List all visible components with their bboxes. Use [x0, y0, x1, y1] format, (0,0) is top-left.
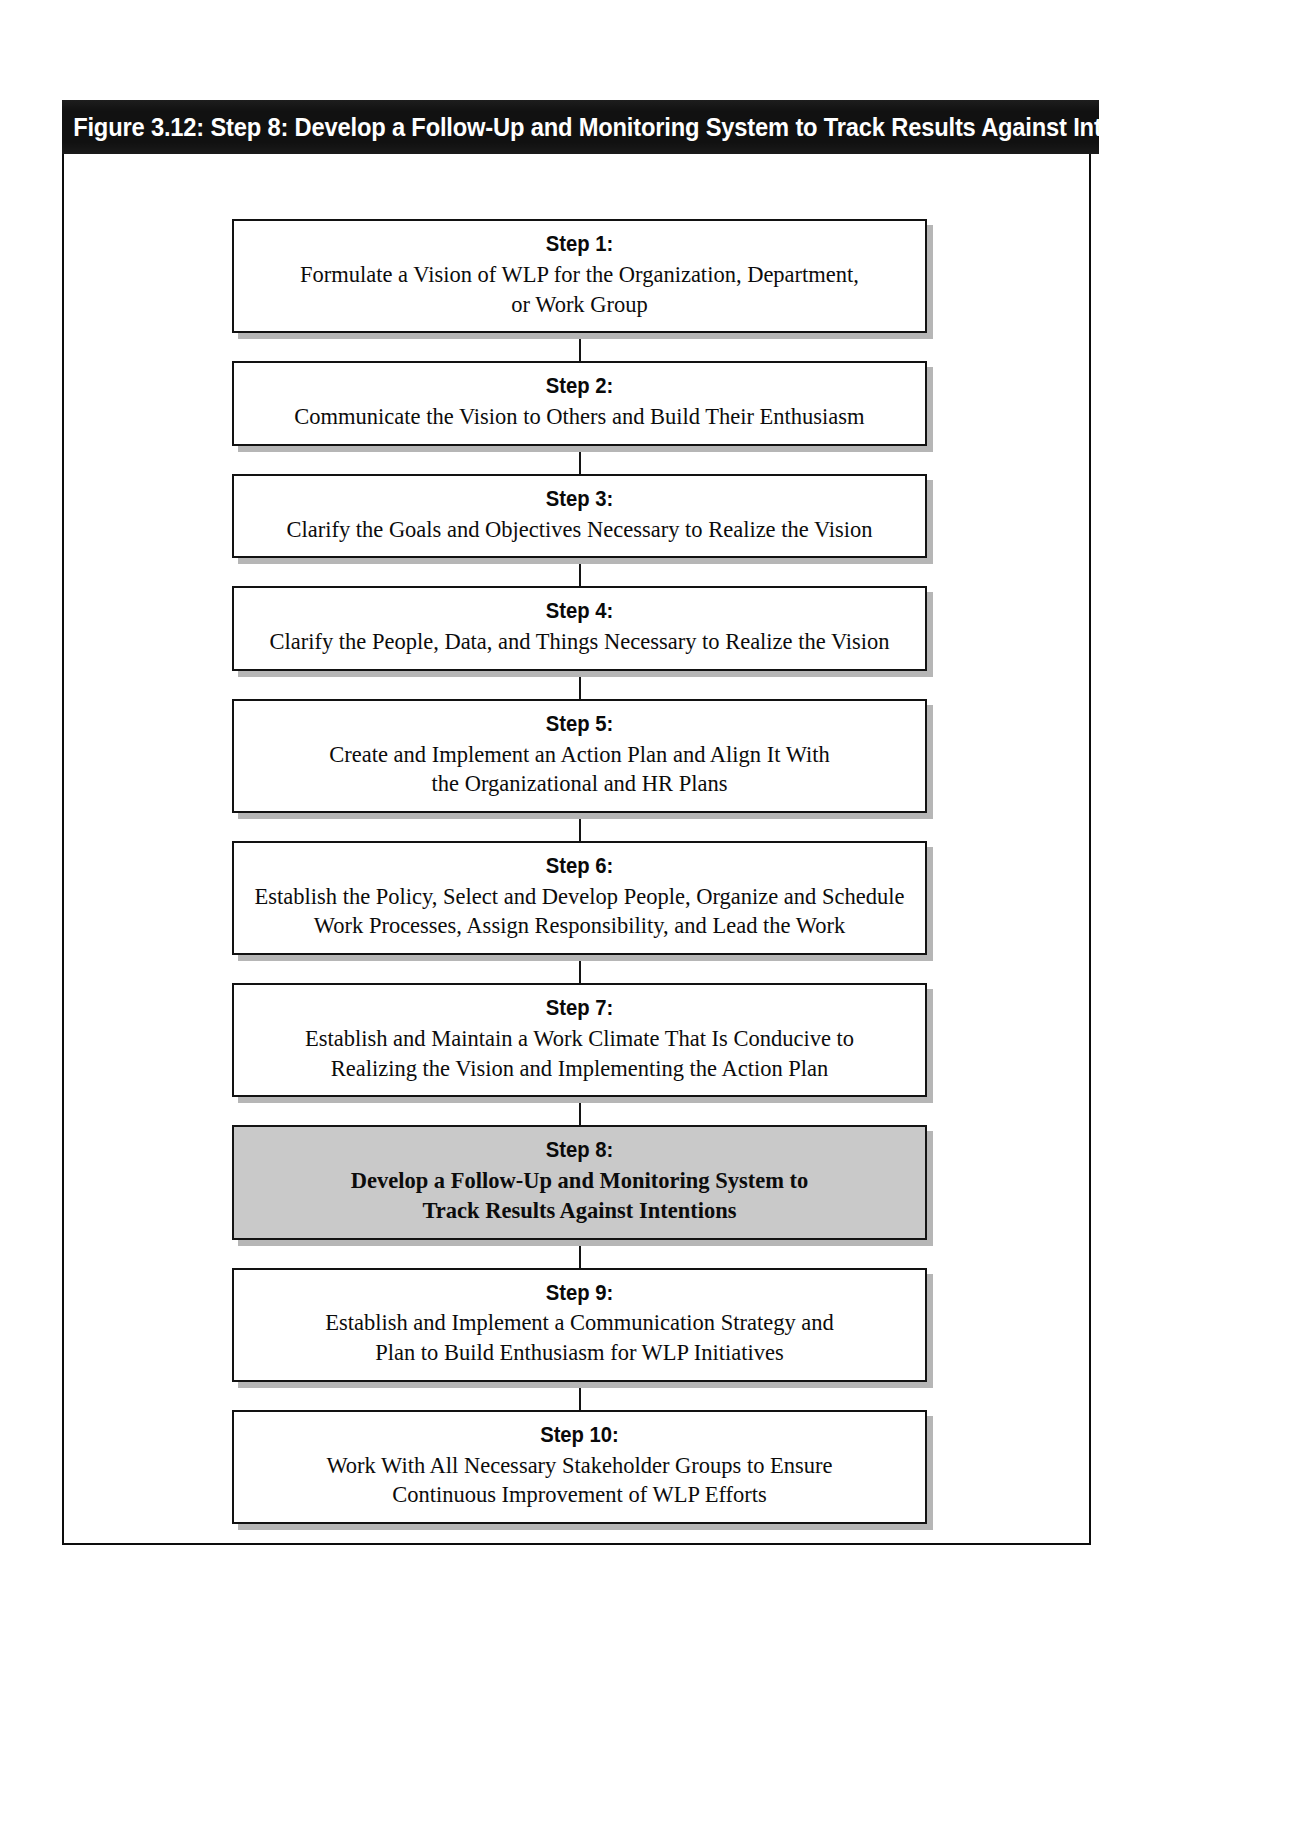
flow-step-box-8[interactable]: Step 8:Develop a Follow-Up and Monitorin…: [232, 1125, 927, 1239]
flowchart: Step 1:Formulate a Vision of WLP for the…: [232, 219, 932, 1524]
flow-connector: [232, 955, 927, 983]
flow-step-box-5[interactable]: Step 5:Create and Implement an Action Pl…: [232, 699, 927, 813]
flow-step-body: Formulate a Vision of WLP for the Organi…: [250, 260, 909, 319]
flow-step-label: Step 5:: [276, 711, 882, 738]
flow-step-box-4[interactable]: Step 4:Clarify the People, Data, and Thi…: [232, 586, 927, 671]
flow-connector: [232, 446, 927, 474]
flow-node-wrapper: Step 9:Establish and Implement a Communi…: [232, 1268, 927, 1382]
flow-connector: [232, 813, 927, 841]
flow-connector: [232, 333, 927, 361]
flow-step-body: Communicate the Vision to Others and Bui…: [250, 402, 909, 432]
flow-step-box-10[interactable]: Step 10:Work With All Necessary Stakehol…: [232, 1410, 927, 1524]
flow-step-body: Clarify the People, Data, and Things Nec…: [250, 627, 909, 657]
flow-step-body: Establish the Policy, Select and Develop…: [250, 882, 909, 941]
flow-step-box-3[interactable]: Step 3:Clarify the Goals and Objectives …: [232, 474, 927, 559]
flow-step-label: Step 9:: [276, 1280, 882, 1307]
flow-step-label: Step 10:: [276, 1422, 882, 1449]
flow-node-wrapper: Step 1:Formulate a Vision of WLP for the…: [232, 219, 927, 333]
flow-connector: [232, 1097, 927, 1125]
flow-connector: [232, 558, 927, 586]
flow-step-label: Step 7:: [276, 995, 882, 1022]
flow-node-wrapper: Step 6:Establish the Policy, Select and …: [232, 841, 927, 955]
flow-step-body: Establish and Implement a Communication …: [250, 1308, 909, 1367]
flow-step-label: Step 6:: [276, 853, 882, 880]
flow-step-body: Develop a Follow-Up and Monitoring Syste…: [250, 1166, 909, 1225]
flow-node-wrapper: Step 7:Establish and Maintain a Work Cli…: [232, 983, 927, 1097]
flow-step-label: Step 3:: [276, 486, 882, 513]
flow-node-wrapper: Step 8:Develop a Follow-Up and Monitorin…: [232, 1125, 927, 1239]
flow-step-body: Clarify the Goals and Objectives Necessa…: [250, 515, 909, 545]
flow-step-label: Step 1:: [276, 231, 882, 258]
flow-node-wrapper: Step 4:Clarify the People, Data, and Thi…: [232, 586, 927, 671]
flow-step-box-7[interactable]: Step 7:Establish and Maintain a Work Cli…: [232, 983, 927, 1097]
flow-step-box-6[interactable]: Step 6:Establish the Policy, Select and …: [232, 841, 927, 955]
flow-connector: [232, 1382, 927, 1410]
flow-step-box-9[interactable]: Step 9:Establish and Implement a Communi…: [232, 1268, 927, 1382]
flow-node-wrapper: Step 5:Create and Implement an Action Pl…: [232, 699, 927, 813]
flow-node-wrapper: Step 2:Communicate the Vision to Others …: [232, 361, 927, 446]
figure-title-banner: Figure 3.12: Step 8: Develop a Follow-Up…: [62, 100, 1099, 154]
flow-step-body: Establish and Maintain a Work Climate Th…: [250, 1024, 909, 1083]
flow-step-box-1[interactable]: Step 1:Formulate a Vision of WLP for the…: [232, 219, 927, 333]
flow-step-label: Step 8:: [276, 1137, 882, 1164]
flow-step-label: Step 4:: [276, 598, 882, 625]
flow-node-wrapper: Step 10:Work With All Necessary Stakehol…: [232, 1410, 927, 1524]
flow-step-label: Step 2:: [276, 373, 882, 400]
figure-title: Figure 3.12: Step 8: Develop a Follow-Up…: [62, 100, 1026, 154]
flow-connector: [232, 1240, 927, 1268]
flow-step-body: Work With All Necessary Stakeholder Grou…: [250, 1451, 909, 1510]
flow-node-wrapper: Step 3:Clarify the Goals and Objectives …: [232, 474, 927, 559]
flow-connector: [232, 671, 927, 699]
flow-step-box-2[interactable]: Step 2:Communicate the Vision to Others …: [232, 361, 927, 446]
flow-step-body: Create and Implement an Action Plan and …: [250, 740, 909, 799]
